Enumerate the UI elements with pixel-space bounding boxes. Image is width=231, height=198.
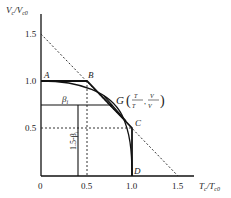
svg-text:T: T	[132, 103, 136, 109]
svg-text:V: V	[148, 103, 153, 109]
point-d-label: D	[133, 166, 141, 176]
x-axis-label: Tc/Tc0	[199, 181, 220, 192]
g-point-label: G ( T T , V V )	[116, 93, 165, 109]
y-tick-0-5: 0.5	[25, 123, 37, 133]
x-tick-1-5: 1.5	[172, 181, 184, 191]
x-tick-0: 0	[38, 181, 43, 191]
x-tick-1-0: 1.0	[126, 181, 138, 191]
svg-text:G: G	[116, 94, 124, 106]
beta-label: βi	[61, 94, 68, 105]
y-axis-label: Vc/Vc0	[6, 5, 28, 16]
y-tick-1-0: 1.0	[25, 76, 37, 86]
diagram-canvas: Vc/Vc0 1.5 1.0 0.5 0 0.5 1.0 1.5 Tc/Tc0 …	[0, 0, 231, 198]
svg-text:): )	[160, 93, 165, 109]
point-g-marker	[110, 104, 113, 107]
x-tick-0-5: 0.5	[81, 181, 93, 191]
svg-text:,: ,	[144, 97, 146, 106]
svg-text:(: (	[126, 93, 131, 109]
vertical-beta-label: 1.5-βi	[69, 131, 79, 150]
point-a-label: A	[43, 70, 50, 80]
svg-text:T: T	[134, 93, 138, 99]
point-c-label: C	[135, 118, 142, 128]
point-b-label: B	[88, 70, 94, 80]
y-tick-1-5: 1.5	[25, 29, 37, 39]
svg-text:V: V	[150, 93, 155, 99]
